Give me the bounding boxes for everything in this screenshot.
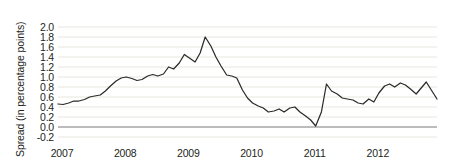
x-axis-tick-label: 2012 [367,147,390,159]
chart-figure: Spread (in percentage points) 2.01.81.61… [0,0,450,167]
x-axis-tick-label: 2009 [177,147,200,159]
y-axis-tick-label: -0.2 [37,131,55,143]
x-axis-tick-label: 2007 [51,147,74,159]
data-series-group [58,37,437,126]
y-axis-tick-labels: 2.01.81.61.41.21.00.80.60.40.20.0-0.2 [37,21,55,143]
line-chart-plot: 2.01.81.61.41.21.00.80.60.40.20.0-0.2 20… [0,0,450,167]
x-axis-tick-label: 2010 [240,147,263,159]
x-axis-tick-labels: 200720082009201020112012 [51,147,390,159]
data-line-spread [58,37,437,126]
x-axis-tick-label: 2008 [114,147,137,159]
x-axis-tick-label: 2011 [304,147,326,159]
